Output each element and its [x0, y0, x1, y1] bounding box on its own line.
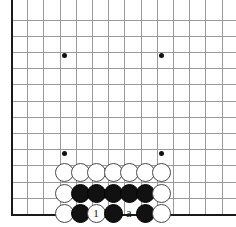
- star-point: [159, 151, 164, 156]
- stone-black[interactable]: [87, 184, 106, 203]
- star-point: [62, 53, 67, 58]
- grid-line-horizontal: [11, 182, 236, 183]
- stone-white[interactable]: [87, 163, 106, 182]
- grid-line-horizontal: [11, 117, 236, 118]
- grid-line-horizontal: [11, 52, 236, 53]
- star-point: [159, 53, 164, 58]
- grid-line-horizontal: [11, 149, 236, 150]
- board-edge-left: [11, 0, 13, 216]
- go-board-diagram: 1 a: [0, 0, 236, 227]
- grid-line-horizontal: [11, 84, 236, 85]
- grid-line-horizontal: [11, 133, 236, 134]
- stone-white[interactable]: [152, 163, 171, 182]
- grid-line-horizontal: [11, 36, 236, 37]
- point-label-a[interactable]: a: [120, 204, 139, 223]
- grid-line-horizontal: [11, 101, 236, 102]
- move-number: 1: [93, 208, 99, 219]
- star-point: [62, 151, 67, 156]
- grid-line-horizontal: [11, 68, 236, 69]
- grid-line-horizontal: [11, 20, 236, 21]
- stone-white-move-1[interactable]: 1: [87, 204, 106, 223]
- stone-white[interactable]: [152, 204, 171, 223]
- stone-white[interactable]: [152, 184, 171, 203]
